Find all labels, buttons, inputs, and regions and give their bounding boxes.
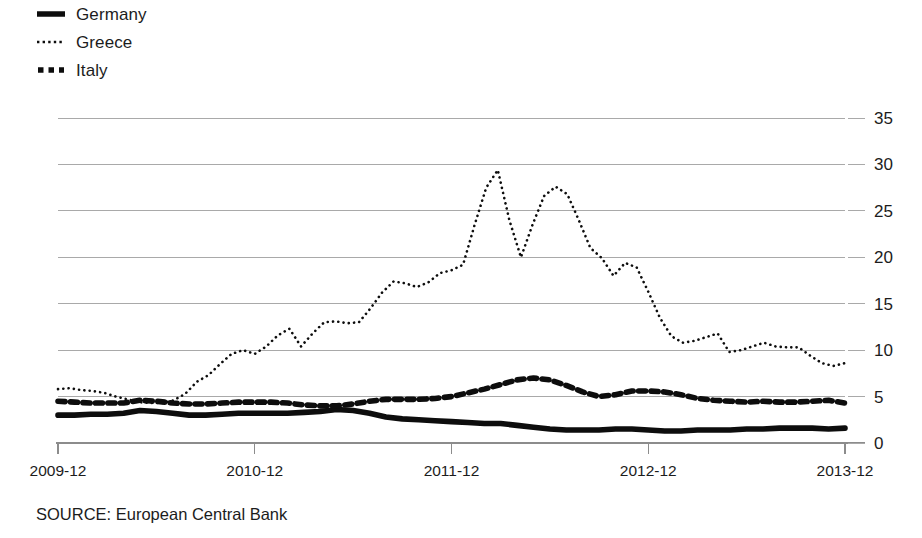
- axes: [56, 443, 865, 454]
- chart-figure: Germany Greece Italy 05101520253035 2009…: [0, 0, 922, 538]
- y-tick-label: 10: [874, 341, 893, 360]
- y-axis-tick-labels: 05101520253035: [848, 109, 893, 453]
- x-tick-label: 2011-12: [424, 462, 480, 479]
- gridlines: [58, 118, 845, 397]
- chart-plot-area: 05101520253035 2009-122010-122011-122012…: [0, 0, 922, 500]
- series-line-germany: [58, 410, 845, 431]
- y-tick-label: 30: [874, 155, 893, 174]
- y-tick-label: 15: [874, 295, 893, 314]
- y-tick-label: 5: [874, 388, 883, 407]
- x-tick-label: 2013-12: [817, 462, 874, 479]
- series-line-greece: [58, 170, 845, 403]
- x-axis-tick-labels: 2009-122010-122011-122012-122013-12: [30, 462, 874, 479]
- source-note: SOURCE: European Central Bank: [36, 505, 287, 524]
- y-tick-label: 0: [874, 434, 883, 453]
- x-tick-label: 2009-12: [30, 462, 87, 479]
- y-tick-label: 20: [874, 248, 893, 267]
- y-tick-label: 35: [874, 109, 893, 128]
- x-tick-label: 2010-12: [226, 462, 283, 479]
- series-lines: [58, 170, 845, 431]
- y-tick-label: 25: [874, 202, 893, 221]
- x-tick-label: 2012-12: [620, 462, 677, 479]
- series-line-italy: [58, 378, 845, 406]
